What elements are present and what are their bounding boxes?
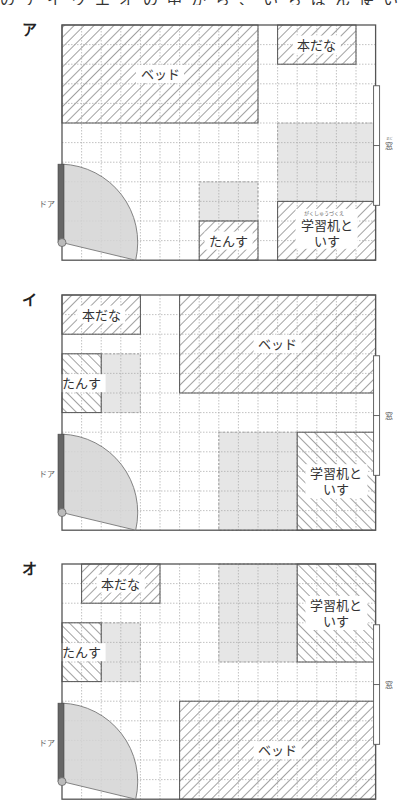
door-hinge-icon	[58, 239, 66, 247]
furniture-label-bed: ベッド	[141, 67, 180, 82]
door-hinge-icon	[58, 778, 66, 786]
furniture-label-desk-and-chair: いす	[323, 482, 349, 497]
window-label: 窓	[385, 141, 393, 151]
door-hinge-icon	[58, 509, 66, 517]
furniture-label-dresser: たんす	[62, 645, 101, 660]
diagram-a: アベッド本だながくしゅうづくえ学習机といすたんすドア窓まど	[22, 21, 393, 260]
door-panel	[58, 164, 64, 242]
door-label: ドア	[39, 200, 55, 209]
furniture-label-bed: ベッド	[258, 743, 297, 758]
furniture-label-bookshelf: 本だな	[82, 308, 121, 323]
furniture-label-desk-and-chair: 学習机と	[301, 218, 353, 233]
diagram-i: イ本だなベッドたんす学習机といすドア窓	[22, 291, 393, 530]
diagrams-root: アベッド本だながくしゅうづくえ学習机といすたんすドア窓まどイ本だなベッドたんす学…	[22, 21, 393, 799]
window-label: 窓	[385, 680, 393, 690]
furniture-label-bookshelf: 本だな	[101, 577, 140, 592]
furniture-label-dresser: たんす	[62, 376, 101, 391]
furniture-label-desk-and-chair: 学習机と	[310, 466, 362, 481]
door-panel	[58, 703, 64, 781]
furniture-label-dresser: たんす	[209, 234, 248, 249]
furniture-label-desk-and-chair: 学習机と	[310, 598, 362, 613]
option-label: ア	[22, 21, 37, 39]
furniture-label-desk-and-chair: いす	[314, 234, 340, 249]
furniture-label-bed: ベッド	[258, 337, 297, 352]
room-layout-diagrams: アベッド本だながくしゅうづくえ学習机といすたんすドア窓まどイ本だなベッドたんす学…	[0, 0, 406, 810]
door-label: ドア	[39, 470, 55, 479]
desk-ruby-text: がくしゅうづくえ	[304, 210, 344, 217]
door-panel	[58, 434, 64, 512]
window-label: 窓	[385, 411, 393, 421]
option-label: オ	[22, 560, 37, 578]
option-label: イ	[22, 291, 37, 309]
door-label: ドア	[39, 739, 55, 748]
diagram-o: オ本だな学習机といすたんすベッドドア窓	[22, 560, 393, 799]
furniture-label-bookshelf: 本だな	[297, 38, 336, 53]
window-ruby: まど	[386, 136, 393, 141]
furniture-label-desk-and-chair: いす	[323, 614, 349, 629]
